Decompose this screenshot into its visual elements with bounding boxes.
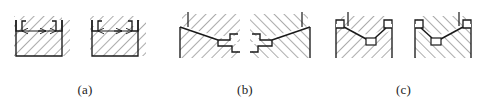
figure-a-caption: (a)	[0, 83, 170, 96]
figure-a-variant-right	[90, 16, 146, 56]
upper-left-corner-recess	[336, 20, 344, 28]
figure-b-variant-right	[250, 12, 310, 58]
figure-group-c: (c)	[320, 0, 487, 102]
upper-left-corner-recess	[463, 20, 471, 28]
figure-a-drawing	[0, 0, 170, 70]
figure-b-caption: (b)	[160, 83, 330, 96]
figure-group-a: (a)	[0, 0, 170, 102]
upper-right-corner-recess	[384, 20, 392, 28]
figure-c-drawing	[320, 0, 487, 70]
figure-a-variant-left	[14, 16, 70, 56]
upper-right-corner-recess	[415, 20, 423, 28]
figure-b-drawing	[160, 0, 330, 70]
figure-sheet: (a)	[0, 0, 487, 102]
figure-c-caption: (c)	[320, 83, 487, 96]
vertex-square-marker	[366, 38, 376, 45]
vertex-square-marker	[431, 38, 441, 45]
figure-c-variant-left	[336, 12, 392, 58]
figure-group-b: (b)	[160, 0, 330, 102]
figure-b-variant-left	[180, 12, 240, 58]
figure-c-variant-right	[415, 12, 471, 58]
